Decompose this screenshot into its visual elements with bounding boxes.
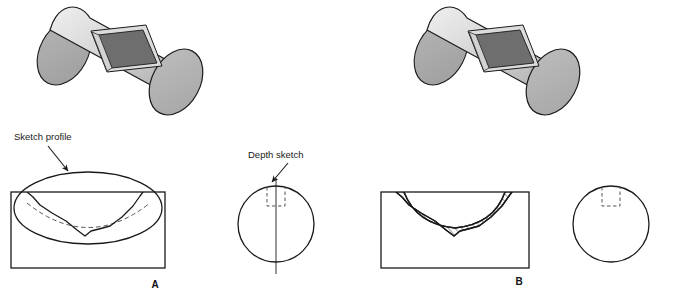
end-view-a	[238, 178, 314, 274]
figure-root: Sketch profile Depth sketch	[0, 0, 674, 303]
cylinder-a	[26, 7, 213, 124]
sketch-profile-label: Sketch profile	[14, 131, 72, 142]
sketch-profile-leader	[48, 146, 68, 171]
section-a-rectangle	[11, 192, 165, 268]
depth-sketch-callout: Depth sketch	[248, 149, 303, 182]
section-view-a	[11, 172, 165, 268]
panel-letter-b: B	[515, 276, 522, 287]
section-view-b	[381, 192, 529, 268]
cylinder-b	[403, 7, 590, 124]
depth-sketch-leader	[272, 163, 288, 182]
panel-letter-a: A	[151, 279, 158, 290]
sketch-profile-callout: Sketch profile	[14, 131, 72, 171]
end-view-b	[573, 186, 649, 262]
technical-illustration: Sketch profile Depth sketch	[0, 0, 674, 303]
end-view-b-circle	[573, 186, 649, 262]
depth-sketch-label: Depth sketch	[248, 149, 303, 160]
